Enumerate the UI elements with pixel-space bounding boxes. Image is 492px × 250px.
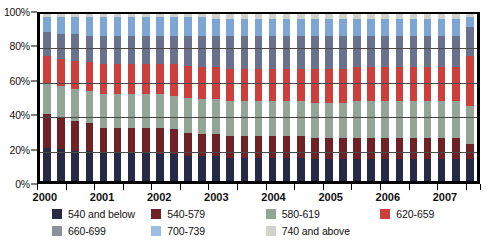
bar-slot bbox=[139, 14, 153, 181]
bar-slot bbox=[280, 14, 294, 181]
bar-segment bbox=[226, 19, 234, 36]
bar-segment bbox=[184, 98, 192, 133]
bar-slot bbox=[308, 14, 322, 181]
bar-segment bbox=[184, 36, 192, 66]
bar-slot bbox=[435, 14, 449, 181]
bar-segment bbox=[410, 67, 418, 100]
stacked-bar bbox=[466, 14, 474, 181]
bar-segment bbox=[57, 34, 65, 59]
plot-area bbox=[37, 12, 480, 184]
bar-segment bbox=[367, 67, 375, 100]
bar-segment bbox=[255, 136, 263, 158]
bar-segment bbox=[156, 154, 164, 181]
stacked-bar bbox=[325, 14, 333, 181]
bar-segment bbox=[367, 101, 375, 138]
bar-segment bbox=[438, 19, 446, 36]
legend-swatch-icon bbox=[52, 209, 62, 219]
legend-swatch-icon bbox=[52, 226, 62, 236]
x-axis-year-label: 2004 bbox=[261, 191, 285, 203]
x-axis-tick-mark bbox=[266, 184, 267, 190]
x-axis: 20002001200220032004200520062007 bbox=[37, 184, 480, 206]
bar-segment bbox=[156, 128, 164, 155]
stacked-bar bbox=[311, 14, 319, 181]
bar-slot bbox=[421, 14, 435, 181]
bar-segment bbox=[100, 36, 108, 64]
x-axis-year-label: 2007 bbox=[433, 191, 457, 203]
bar-segment bbox=[170, 129, 178, 154]
bar-segment bbox=[283, 158, 291, 181]
bar-segment bbox=[57, 59, 65, 86]
bar-segment bbox=[311, 36, 319, 69]
bar-segment bbox=[142, 94, 150, 127]
bar-segment bbox=[311, 138, 319, 160]
stacked-bar bbox=[241, 14, 249, 181]
bar-segment bbox=[43, 114, 51, 147]
bar-segment bbox=[100, 94, 108, 127]
bar-segment bbox=[100, 153, 108, 181]
stacked-bar bbox=[142, 14, 150, 181]
bar-segment bbox=[86, 151, 94, 181]
bar-segment bbox=[297, 158, 305, 181]
x-axis-year-label: 2005 bbox=[318, 191, 342, 203]
bar-segment bbox=[43, 56, 51, 83]
bar-segment bbox=[170, 36, 178, 64]
bar-segment bbox=[198, 134, 206, 156]
chart-legend: 540 and below 540-579 580-619 620-659 66… bbox=[52, 205, 472, 247]
stacked-bar bbox=[43, 14, 51, 181]
bar-segment bbox=[114, 128, 122, 153]
bar-segment bbox=[396, 138, 404, 160]
bar-segment bbox=[353, 36, 361, 68]
bar-segment bbox=[452, 36, 460, 68]
y-axis: 0%20%40%60%80%100% bbox=[0, 12, 37, 184]
stacked-bar bbox=[184, 14, 192, 181]
bar-slot bbox=[251, 14, 265, 181]
bar-segment bbox=[100, 64, 108, 94]
bar-segment bbox=[466, 106, 474, 144]
legend-label: 540-579 bbox=[167, 208, 205, 220]
bar-slot bbox=[336, 14, 350, 181]
bar-segment bbox=[128, 153, 136, 181]
y-axis-tick-label: 40% bbox=[10, 109, 30, 121]
bar-slot bbox=[68, 14, 82, 181]
bar-segment bbox=[325, 69, 333, 102]
bar-slot bbox=[350, 14, 364, 181]
bar-segment bbox=[142, 36, 150, 64]
stacked-bar bbox=[198, 14, 206, 181]
stacked-bar bbox=[255, 14, 263, 181]
x-axis-tick-mark bbox=[480, 184, 481, 190]
bar-segment bbox=[170, 154, 178, 181]
bar-slot bbox=[223, 14, 237, 181]
bar-segment bbox=[339, 159, 347, 181]
x-axis-tick-mark bbox=[466, 184, 467, 190]
bar-segment bbox=[311, 103, 319, 138]
bar-segment bbox=[114, 64, 122, 94]
x-axis-tick-mark bbox=[323, 184, 324, 190]
bar-segment bbox=[212, 36, 220, 68]
bar-segment bbox=[114, 153, 122, 181]
bar-segment bbox=[114, 17, 122, 35]
bar-slot bbox=[322, 14, 336, 181]
bar-segment bbox=[184, 17, 192, 35]
x-axis-year-label: 2003 bbox=[204, 191, 228, 203]
stacked-bar bbox=[86, 14, 94, 181]
bar-segment bbox=[43, 148, 51, 181]
bar-slot bbox=[237, 14, 251, 181]
stacked-bar bbox=[100, 14, 108, 181]
x-axis-year-label: 2006 bbox=[376, 191, 400, 203]
bar-segment bbox=[226, 158, 234, 181]
bar-segment bbox=[269, 36, 277, 69]
bar-segment bbox=[241, 136, 249, 158]
bar-segment bbox=[311, 159, 319, 181]
bar-segment bbox=[381, 67, 389, 100]
bar-segment bbox=[297, 19, 305, 36]
bar-segment bbox=[424, 138, 432, 160]
bar-segment bbox=[353, 138, 361, 160]
bar-slot bbox=[449, 14, 463, 181]
stacked-bar bbox=[410, 14, 418, 181]
bar-segment bbox=[226, 136, 234, 158]
bar-segment bbox=[86, 62, 94, 90]
bar-segment bbox=[43, 83, 51, 115]
legend-item-620-659: 620-659 bbox=[380, 205, 472, 222]
bar-segment bbox=[212, 99, 220, 134]
bar-slot bbox=[96, 14, 110, 181]
